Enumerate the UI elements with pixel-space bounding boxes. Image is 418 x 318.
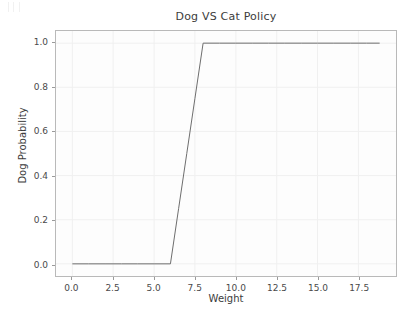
data-line xyxy=(72,43,379,264)
y-tick-mark xyxy=(52,131,55,132)
x-tick-mark xyxy=(154,277,155,280)
x-tick-mark xyxy=(318,277,319,280)
y-tick-mark xyxy=(52,176,55,177)
y-tick-mark xyxy=(52,87,55,88)
x-axis-label: Weight xyxy=(55,293,397,304)
page-title: Dog VS Cat Policy xyxy=(55,10,397,23)
x-tick-mark xyxy=(277,277,278,280)
x-tick-label: 2.5 xyxy=(105,283,119,293)
y-tick-mark xyxy=(52,42,55,43)
scan-artifact xyxy=(6,2,32,12)
y-axis-label: Dog Probability xyxy=(17,86,28,206)
x-tick-mark xyxy=(113,277,114,280)
x-tick-mark xyxy=(359,277,360,280)
x-tick-mark xyxy=(195,277,196,280)
x-tick-label: 17.5 xyxy=(349,283,369,293)
x-tick-label: 7.5 xyxy=(188,283,202,293)
y-tick-mark xyxy=(52,220,55,221)
y-tick-mark xyxy=(52,265,55,266)
grid-horizontal-lines xyxy=(56,43,396,264)
x-tick-label: 10.0 xyxy=(226,283,246,293)
y-tick-label: 1.0 xyxy=(23,37,48,47)
plot-svg xyxy=(56,31,396,276)
x-tick-mark xyxy=(71,277,72,280)
x-tick-label: 15.0 xyxy=(308,283,328,293)
plot-area xyxy=(55,30,397,277)
data-series-group xyxy=(72,43,379,264)
chart-figure: Dog VS Cat Policy 0.02.55.07.510.012.515… xyxy=(0,0,418,318)
x-tick-label: 12.5 xyxy=(267,283,287,293)
grid-vertical-lines xyxy=(72,31,358,276)
x-tick-label: 5.0 xyxy=(146,283,160,293)
x-tick-label: 0.0 xyxy=(64,283,78,293)
y-tick-label: 0.0 xyxy=(23,260,48,270)
y-tick-label: 0.2 xyxy=(23,215,48,225)
x-tick-mark xyxy=(236,277,237,280)
